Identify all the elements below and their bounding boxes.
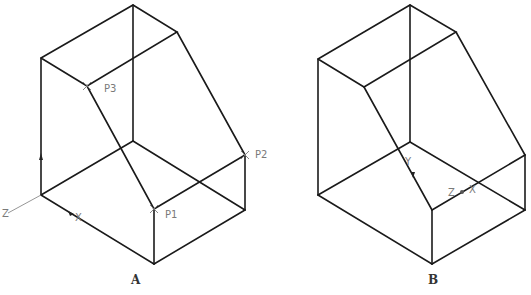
y-arrow-icon bbox=[39, 153, 43, 160]
figure-a: Z X P1 P2 P3 A bbox=[2, 5, 267, 287]
ucs-z-label: Z bbox=[448, 187, 455, 198]
figure-a-edges bbox=[41, 5, 245, 264]
figure-b-edges bbox=[318, 5, 525, 264]
ucs-icon-a: Z X bbox=[2, 153, 82, 223]
svg-text:P1: P1 bbox=[165, 209, 177, 220]
ucs-y-label: Y bbox=[404, 156, 412, 167]
drawing-canvas: Z X P1 P2 P3 A bbox=[0, 0, 531, 295]
caption-a: A bbox=[130, 273, 141, 287]
ucs-x-label: X bbox=[75, 212, 82, 223]
svg-text:P3: P3 bbox=[104, 83, 116, 94]
ucs-z-label: Z bbox=[2, 208, 9, 219]
svg-text:P2: P2 bbox=[255, 149, 267, 160]
caption-b: B bbox=[428, 273, 438, 287]
figure-b: Y Z X B bbox=[318, 5, 525, 287]
ucs-origin-icon bbox=[460, 190, 464, 194]
ucs-icon-b: Y Z X bbox=[404, 156, 476, 198]
ucs-x-label: X bbox=[469, 184, 476, 195]
